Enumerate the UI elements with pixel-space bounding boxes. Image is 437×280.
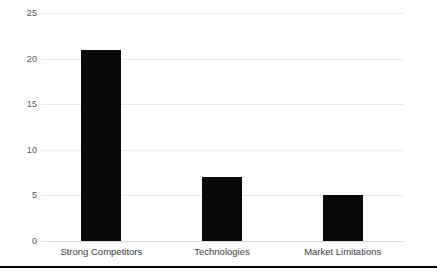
bar-technologies bbox=[202, 177, 242, 241]
bar-strong-competitors bbox=[81, 50, 121, 242]
x-axis: Strong Competitors Technologies Market L… bbox=[41, 246, 403, 262]
y-axis-tick-label: 5 bbox=[3, 191, 37, 200]
y-axis: 25 20 15 10 5 0 bbox=[0, 13, 37, 241]
y-axis-tick-label: 20 bbox=[3, 55, 37, 64]
y-axis-tick-label: 10 bbox=[3, 146, 37, 155]
gridline-0-baseline bbox=[41, 241, 403, 242]
bar-slot bbox=[282, 13, 403, 241]
y-axis-tick-label: 0 bbox=[3, 237, 37, 246]
y-axis-tick-label: 25 bbox=[3, 9, 37, 18]
bar-chart-figure: 25 20 15 10 5 0 Strong Competitors Techn… bbox=[0, 0, 437, 280]
bottom-divider bbox=[0, 266, 437, 268]
x-axis-tick-label-market-limitations: Market Limitations bbox=[304, 246, 381, 258]
x-axis-tick-label-strong-competitors: Strong Competitors bbox=[60, 246, 142, 258]
y-axis-tick-label: 15 bbox=[3, 100, 37, 109]
bar-market-limitations bbox=[323, 195, 363, 241]
x-axis-tick-label-technologies: Technologies bbox=[194, 246, 249, 258]
bar-slot bbox=[41, 13, 162, 241]
bar-slot bbox=[162, 13, 283, 241]
plot-area bbox=[41, 13, 403, 241]
